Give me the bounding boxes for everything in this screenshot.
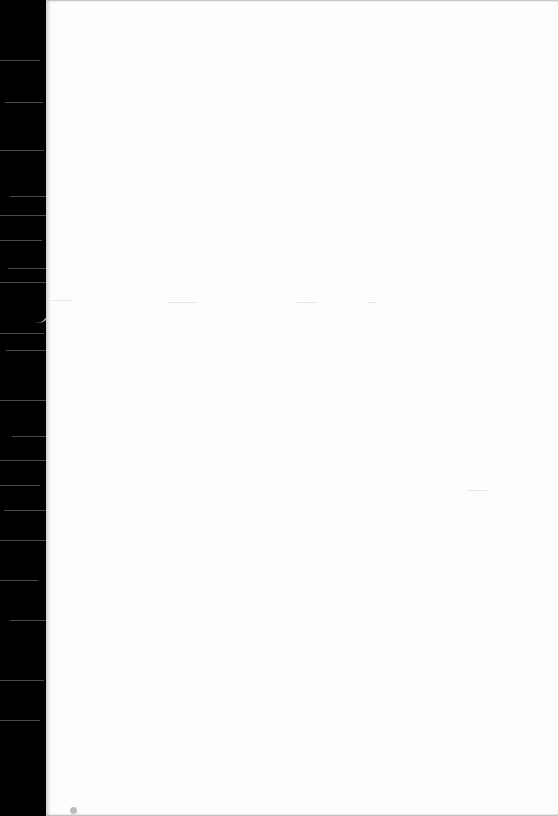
scan-spot: [70, 807, 77, 814]
blank-page: [46, 0, 558, 816]
scanner-margin: [0, 0, 48, 816]
page-top-edge: [47, 0, 558, 2]
